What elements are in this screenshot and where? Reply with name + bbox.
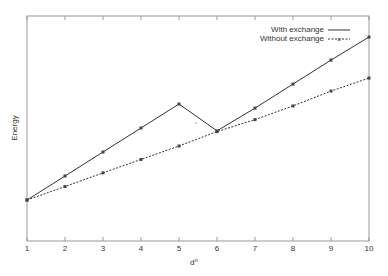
- legend: With exchange Without exchange ×: [260, 25, 350, 43]
- x-axis-label: dn: [190, 257, 198, 267]
- svg-text:×: ×: [337, 36, 341, 43]
- stray-dot: [195, 122, 196, 123]
- plot-frame: [27, 16, 369, 241]
- svg-text:2: 2: [63, 244, 68, 253]
- svg-text:3: 3: [101, 244, 106, 253]
- svg-text:4: 4: [139, 244, 144, 253]
- legend-label-with-exchange: With exchange: [271, 25, 324, 34]
- svg-text:5: 5: [177, 244, 182, 253]
- series-lines: [26, 36, 371, 202]
- svg-text:9: 9: [329, 244, 334, 253]
- svg-text:8: 8: [291, 244, 296, 253]
- y-axis-label: Energy: [10, 115, 19, 140]
- energy-chart: 12345678910 Energy dn With exchange With…: [0, 0, 388, 276]
- x-axis-ticks: 12345678910: [25, 16, 374, 253]
- svg-text:1: 1: [25, 244, 30, 253]
- svg-text:6: 6: [215, 244, 220, 253]
- svg-text:10: 10: [365, 244, 374, 253]
- svg-text:7: 7: [253, 244, 258, 253]
- legend-label-without-exchange: Without exchange: [260, 34, 325, 43]
